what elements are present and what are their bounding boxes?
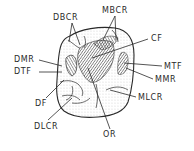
label-df: DF xyxy=(35,100,47,108)
label-mmr: MMR xyxy=(155,76,176,84)
label-mtf: MTF xyxy=(164,63,182,71)
tooth-diagram: DBCR MBCR CF DMR DTF MTF MMR DF MLCR DLC… xyxy=(0,0,194,151)
label-dmr: DMR xyxy=(14,56,34,64)
label-mbcr: MBCR xyxy=(102,7,128,15)
label-dtf: DTF xyxy=(14,68,31,76)
label-dlcr: DLCR xyxy=(34,123,58,131)
label-cf: CF xyxy=(151,35,162,43)
label-mlcr: MLCR xyxy=(138,94,163,102)
label-or: OR xyxy=(103,131,116,139)
label-dbcr: DBCR xyxy=(53,14,78,22)
